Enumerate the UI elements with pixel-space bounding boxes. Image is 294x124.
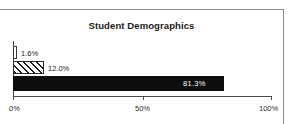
- bar-label-series-2: 12.0%: [48, 64, 69, 73]
- x-axis-tick-label-50: 50%: [135, 104, 150, 113]
- chart-title: Student Demographics: [0, 20, 283, 31]
- bar-series-2: [13, 61, 44, 74]
- x-axis-tick-label-100: 100%: [259, 104, 278, 113]
- x-axis-tick-label-0: 0%: [9, 104, 20, 113]
- bar-label-series-3: 81.3%: [183, 79, 206, 88]
- x-axis-tick-50: [143, 97, 144, 100]
- x-axis-tick-100: [271, 97, 272, 100]
- x-axis-tick-0: [13, 97, 14, 100]
- bar-label-series-1: 1.6%: [21, 49, 38, 58]
- bar-series-1: [13, 46, 17, 59]
- figure-frame-right-border: [283, 9, 284, 124]
- chart-figure: Student Demographics 1.6% 12.0% 81.3% 0%…: [0, 0, 294, 124]
- figure-frame-top-border: [0, 9, 284, 10]
